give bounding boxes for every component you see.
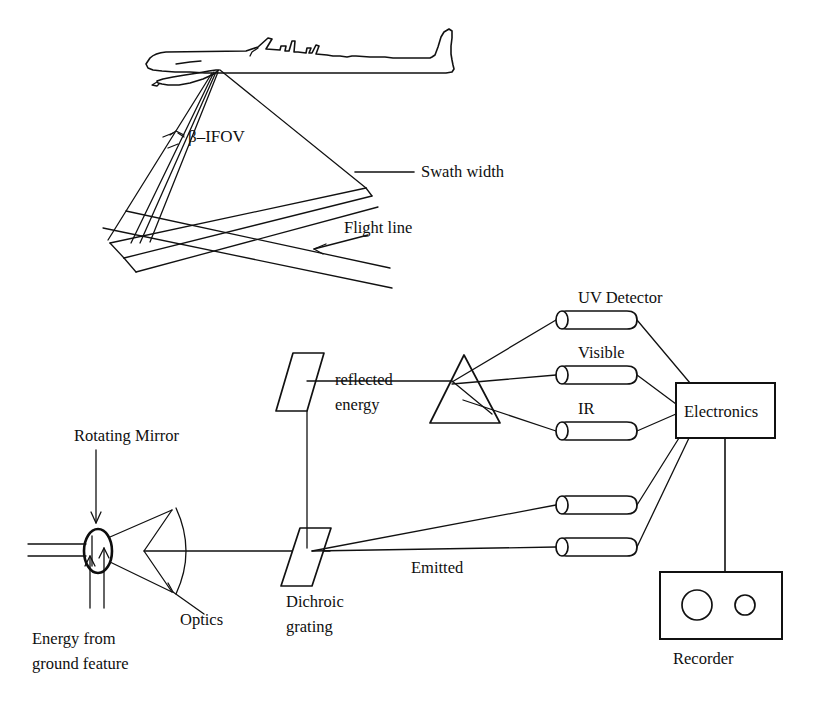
recorder-reel-large xyxy=(682,590,712,620)
dichroic-grating-label-line2: grating xyxy=(286,617,333,636)
scanner-diagram-svg: β–IFOV Swath width Flight line xyxy=(0,0,822,711)
ifov-label: β–IFOV xyxy=(188,127,246,146)
swath-width-label: Swath width xyxy=(421,162,505,181)
reflected-energy-label-line2: energy xyxy=(335,395,380,414)
ir-detector-label: IR xyxy=(578,399,595,418)
recorder-label: Recorder xyxy=(673,649,734,668)
electronics-label: Electronics xyxy=(684,402,758,421)
reflected-energy-label-line1: reflected xyxy=(335,370,393,389)
emitted-label: Emitted xyxy=(411,558,464,577)
rotating-mirror-label: Rotating Mirror xyxy=(74,426,179,445)
recorder-reel-small xyxy=(735,595,755,615)
detector-uv xyxy=(556,311,637,329)
energy-source-label-line2: ground feature xyxy=(32,654,129,673)
visible-detector-label: Visible xyxy=(578,343,625,362)
flight-line-label: Flight line xyxy=(344,218,412,237)
detector-visible xyxy=(556,366,637,384)
detector-ir xyxy=(556,422,637,440)
dichroic-grating-label-line1: Dichroic xyxy=(286,592,344,611)
recorder-box xyxy=(660,572,782,639)
detector-thermal-b xyxy=(556,538,637,556)
energy-source-label-line1: Energy from xyxy=(32,629,116,648)
diagram-root: β–IFOV Swath width Flight line xyxy=(0,0,822,711)
detector-thermal-a xyxy=(556,496,637,514)
uv-detector-label: UV Detector xyxy=(578,288,663,307)
optics-label: Optics xyxy=(180,610,223,629)
